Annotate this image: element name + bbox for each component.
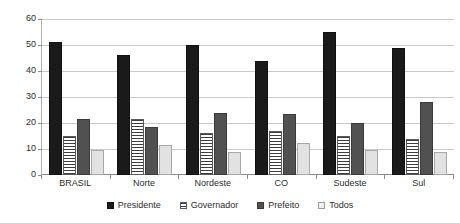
bar-nordeste-todos[interactable] <box>228 152 241 175</box>
y-axis-label: 40 <box>8 66 36 75</box>
bar-nordeste-presidente[interactable] <box>186 45 199 175</box>
bar-chart: 0102030405060 BRASILNorteNordesteCOSudes… <box>0 0 460 223</box>
x-axis-label-nordeste: Nordeste <box>178 178 247 189</box>
bar-group-nordeste <box>179 19 248 175</box>
bar-sul-governador[interactable] <box>406 139 419 175</box>
bar-co-todos[interactable] <box>297 143 310 176</box>
legend-label: Todos <box>329 200 353 210</box>
legend-swatch-prefeito-icon <box>257 202 264 209</box>
legend-swatch-governador-icon <box>180 202 187 209</box>
x-axis-label-sudeste: Sudeste <box>316 178 385 189</box>
bar-brasil-todos[interactable] <box>91 150 104 175</box>
bar-sudeste-todos[interactable] <box>365 150 378 175</box>
legend-swatch-todos-icon <box>318 202 325 209</box>
y-axis-label: 30 <box>8 92 36 101</box>
legend-label: Presidente <box>118 200 161 210</box>
bar-sudeste-governador[interactable] <box>337 136 350 175</box>
legend-item-prefeito[interactable]: Prefeito <box>257 200 299 210</box>
bar-co-governador[interactable] <box>269 131 282 175</box>
y-axis-label: 50 <box>8 40 36 49</box>
y-axis-label: 10 <box>8 144 36 153</box>
bar-sudeste-prefeito[interactable] <box>351 123 364 175</box>
bar-sul-todos[interactable] <box>434 152 447 175</box>
bar-norte-prefeito[interactable] <box>145 127 158 175</box>
bar-group-brasil <box>42 19 111 175</box>
x-tick-mark <box>453 175 454 179</box>
bar-nordeste-governador[interactable] <box>200 133 213 175</box>
y-axis: 0102030405060 <box>3 19 36 175</box>
bar-sul-prefeito[interactable] <box>420 102 433 175</box>
x-axis-label-norte: Norte <box>110 178 179 189</box>
bar-co-presidente[interactable] <box>255 61 268 175</box>
legend-swatch-presidente-icon <box>107 202 114 209</box>
plot-area <box>41 19 453 175</box>
chart-legend: PresidenteGovernadorPrefeitoTodos <box>0 198 460 212</box>
y-axis-label: 20 <box>8 118 36 127</box>
x-axis-label-brasil: BRASIL <box>41 178 110 189</box>
legend-label: Prefeito <box>268 200 299 210</box>
x-axis-label-co: CO <box>247 178 316 189</box>
y-axis-label: 60 <box>8 14 36 23</box>
x-axis: BRASILNorteNordesteCOSudesteSul <box>41 178 453 192</box>
legend-item-governador[interactable]: Governador <box>180 200 239 210</box>
bar-brasil-presidente[interactable] <box>49 42 62 175</box>
bar-nordeste-prefeito[interactable] <box>214 113 227 175</box>
bar-sudeste-presidente[interactable] <box>323 32 336 175</box>
bar-group-sul <box>385 19 454 175</box>
y-axis-label: 0 <box>8 170 36 179</box>
bar-norte-todos[interactable] <box>159 145 172 175</box>
legend-item-todos[interactable]: Todos <box>318 200 353 210</box>
bar-norte-governador[interactable] <box>131 119 144 175</box>
bar-co-prefeito[interactable] <box>283 114 296 175</box>
bar-brasil-governador[interactable] <box>63 136 76 175</box>
legend-item-presidente[interactable]: Presidente <box>107 200 161 210</box>
bar-group-co <box>248 19 317 175</box>
bar-group-sudeste <box>317 19 386 175</box>
bar-group-norte <box>111 19 180 175</box>
bar-brasil-prefeito[interactable] <box>77 119 90 175</box>
bar-norte-presidente[interactable] <box>117 55 130 175</box>
bar-sul-presidente[interactable] <box>392 48 405 175</box>
x-axis-label-sul: Sul <box>384 178 453 189</box>
legend-label: Governador <box>191 200 239 210</box>
